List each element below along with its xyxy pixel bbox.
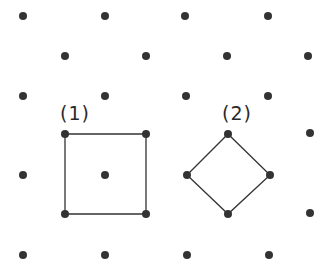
lattice-dot (19, 251, 27, 259)
lattice-dot (265, 251, 273, 259)
lattice-dot (61, 52, 69, 60)
lattice-dot (19, 171, 27, 179)
lattice-dot (304, 52, 312, 60)
lattice-dot (183, 251, 191, 259)
lattice-dot (183, 171, 191, 179)
lattice-dot (61, 130, 69, 138)
lattice-dot (264, 12, 272, 20)
lattice-dot (101, 251, 109, 259)
lattice-dot (142, 210, 150, 218)
lattice-dot (224, 130, 232, 138)
lattice-dot (266, 171, 274, 179)
lattice-dot (264, 92, 272, 100)
lattice-dot (182, 92, 190, 100)
label-shape-1: (1) (60, 102, 90, 124)
lattice-dot (19, 12, 27, 20)
lattice-dot (101, 171, 109, 179)
lattice-dot (101, 92, 109, 100)
lattice-dot (101, 12, 109, 20)
lattice-dot (223, 52, 231, 60)
lattice-dot (306, 129, 314, 137)
lattice-dot (224, 210, 232, 218)
lattice-diagram: (1) (2) (0, 0, 329, 265)
square-2-outline (187, 134, 270, 214)
label-shape-2: (2) (222, 102, 252, 124)
lattice-dot (19, 92, 27, 100)
lattice-dot (61, 210, 69, 218)
lattice-dot (142, 130, 150, 138)
lattice-dot (181, 12, 189, 20)
dot-lattice (0, 0, 329, 265)
lattice-dot (306, 209, 314, 217)
lattice-dot (142, 52, 150, 60)
